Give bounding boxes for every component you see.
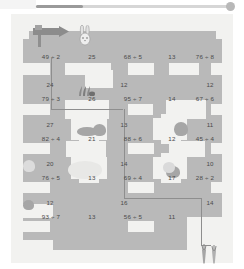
maze-cell[interactable]: 93 ÷ 7 — [27, 213, 75, 220]
maze-cell[interactable]: 45 ÷ 4 — [183, 135, 227, 142]
maze-gap — [23, 182, 50, 193]
rock-decoration — [23, 160, 35, 172]
signpost-arrow-icon — [31, 24, 73, 48]
maze-cell[interactable]: 82 ÷ 4 — [27, 135, 75, 142]
maze-gap — [23, 104, 50, 115]
maze-gap — [23, 221, 50, 232]
worksheet-screen: 49 ÷ 2 25 68 ÷ 5 13 76 ÷ 8 24 12 12 79 ÷… — [0, 0, 244, 269]
maze-connector[interactable]: 12 — [113, 81, 135, 88]
maze-cell[interactable]: 76 ÷ 8 — [183, 53, 227, 60]
top-toolbar — [0, 0, 244, 13]
maze-cell[interactable]: 28 ÷ 2 — [183, 174, 227, 181]
maze-cell[interactable]: 88 ÷ 6 — [109, 135, 157, 142]
maze-cell[interactable]: 67 ÷ 6 — [183, 95, 227, 102]
rabbit-icon — [77, 25, 93, 47]
maze-cell[interactable]: 11 — [157, 213, 187, 220]
maze-gap — [216, 31, 222, 39]
maze-cell[interactable]: 76 ÷ 5 — [27, 174, 75, 181]
maze-connector[interactable]: 12 — [199, 81, 221, 88]
maze-gap — [211, 104, 222, 115]
maze-gap — [23, 63, 50, 75]
rock-decoration — [23, 200, 34, 210]
maze-gap — [211, 143, 222, 154]
maze-connector[interactable]: 11 — [199, 121, 221, 128]
maze-gap — [128, 182, 154, 193]
maze-gap — [23, 143, 50, 154]
carrot-icon — [197, 242, 223, 268]
maze-connector[interactable]: 13 — [113, 121, 135, 128]
pond-decoration — [163, 162, 175, 173]
maze-connector[interactable]: 20 — [39, 160, 61, 167]
zoom-slider-knob[interactable] — [226, 2, 235, 11]
worksheet-sheet: 49 ÷ 2 25 68 ÷ 5 13 76 ÷ 8 24 12 12 79 ÷… — [11, 14, 233, 263]
maze-gap — [23, 31, 29, 39]
maze-gap — [128, 104, 153, 115]
maze-cell[interactable]: 13 — [75, 174, 109, 181]
maze-cell[interactable]: 25 — [75, 53, 109, 60]
maze-cell[interactable]: 49 ÷ 2 — [27, 53, 75, 60]
maze-connector[interactable]: 24 — [39, 81, 61, 88]
maze-gap — [128, 221, 154, 232]
maze-cell[interactable]: 79 ÷ 3 — [27, 95, 75, 102]
toolbar-left-block — [0, 0, 36, 9]
maze-cell[interactable]: 26 — [75, 95, 109, 102]
zoom-slider-fill — [36, 5, 83, 8]
maze-cell[interactable]: 21 — [75, 135, 109, 142]
maze-cell[interactable]: 95 ÷ 7 — [109, 95, 157, 102]
rock-decoration — [174, 122, 188, 136]
maze-connector[interactable]: 12 — [39, 199, 61, 206]
maze-cell[interactable]: 13 — [75, 213, 109, 220]
maze-cell[interactable]: 68 ÷ 5 — [109, 53, 157, 60]
maze-cell[interactable]: 56 ÷ 5 — [109, 213, 157, 220]
guide-line-left-h — [51, 109, 123, 110]
maze-connector[interactable]: 10 — [199, 160, 221, 167]
maze-gap — [169, 63, 199, 75]
maze-gap — [211, 63, 222, 75]
maze-gap — [128, 63, 154, 75]
maze-gap — [211, 182, 222, 193]
maze-connector[interactable]: 14 — [113, 160, 135, 167]
maze-cell[interactable]: 69 ÷ 4 — [109, 174, 157, 181]
maze-connector[interactable]: 27 — [39, 121, 61, 128]
maze-gap — [128, 143, 154, 154]
guide-line-mid-h — [124, 198, 201, 199]
grass-icon — [77, 86, 95, 96]
worksheet-canvas: 49 ÷ 2 25 68 ÷ 5 13 76 ÷ 8 24 12 12 79 ÷… — [11, 14, 233, 263]
maze-gap — [23, 240, 53, 250]
maze-connector[interactable]: 14 — [199, 199, 221, 206]
maze-connector[interactable]: 16 — [113, 199, 135, 206]
